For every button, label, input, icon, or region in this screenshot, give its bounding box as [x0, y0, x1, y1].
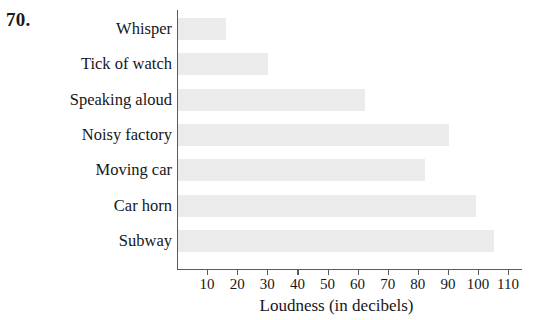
- bar: [178, 230, 494, 252]
- bar: [178, 53, 268, 75]
- category-axis-labels: WhisperTick of watchSpeaking aloudNoisy …: [20, 10, 172, 270]
- category-label: Tick of watch: [20, 56, 172, 73]
- x-tick-label: 30: [260, 277, 275, 292]
- x-tick: [297, 269, 298, 275]
- bar: [178, 89, 365, 111]
- category-label: Noisy factory: [20, 127, 172, 144]
- category-label: Whisper: [20, 21, 172, 38]
- category-label: Speaking aloud: [20, 92, 172, 109]
- x-tick: [508, 269, 509, 275]
- x-tick-label: 100: [467, 277, 490, 292]
- x-tick-label: 90: [440, 277, 455, 292]
- plot-area: [177, 10, 522, 270]
- x-tick-label: 110: [497, 277, 519, 292]
- bar: [178, 195, 476, 217]
- x-tick: [237, 269, 238, 275]
- x-axis-title: Loudness (in decibels): [0, 297, 533, 314]
- x-axis-title-text: Loudness (in decibels): [260, 297, 414, 314]
- x-tick: [358, 269, 359, 275]
- x-tick-label: 40: [290, 277, 305, 292]
- x-tick: [418, 269, 419, 275]
- category-label: Subway: [20, 233, 172, 250]
- x-axis-line: [177, 269, 522, 270]
- x-tick: [388, 269, 389, 275]
- category-label: Moving car: [20, 162, 172, 179]
- x-tick-label: 70: [380, 277, 395, 292]
- bar: [178, 18, 226, 40]
- x-tick-label: 50: [320, 277, 335, 292]
- x-tick-label: 10: [200, 277, 215, 292]
- bar: [178, 124, 449, 146]
- bar: [178, 159, 425, 181]
- x-tick-label: 60: [350, 277, 365, 292]
- x-tick: [328, 269, 329, 275]
- x-tick: [207, 269, 208, 275]
- bar-chart-figure: 70. WhisperTick of watchSpeaking aloudNo…: [0, 0, 533, 320]
- x-tick-label: 20: [230, 277, 245, 292]
- category-label: Car horn: [20, 198, 172, 215]
- x-tick: [267, 269, 268, 275]
- x-tick: [448, 269, 449, 275]
- x-tick-label: 80: [410, 277, 425, 292]
- x-tick: [478, 269, 479, 275]
